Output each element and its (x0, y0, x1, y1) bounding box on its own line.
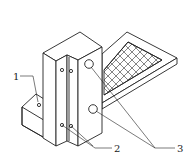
label-3: 3 (177, 144, 183, 154)
isometric-fixture-drawing (0, 0, 195, 167)
hatched-frame (102, 32, 177, 109)
main-block (43, 32, 102, 146)
label-1: 1 (13, 72, 19, 82)
label-2: 2 (114, 144, 120, 154)
